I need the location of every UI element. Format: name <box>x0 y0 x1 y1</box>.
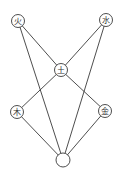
node-label: 金 <box>101 106 109 116</box>
node-label: 火 <box>14 17 22 26</box>
node-wood: 木 <box>11 106 24 119</box>
node-fire: 火 <box>12 15 25 28</box>
edges-layer <box>17 20 106 160</box>
edge-water-center-bottom <box>63 20 106 160</box>
node-circle <box>56 153 70 167</box>
nodes-layer: 火水土木金 <box>11 14 113 168</box>
five-elements-diagram: 火水土木金 <box>0 0 122 178</box>
edge-metal-center-bottom <box>63 111 105 160</box>
edge-fire-center-bottom <box>18 21 63 160</box>
edge-fire-earth <box>18 21 61 70</box>
node-label: 木 <box>13 107 21 117</box>
node-center-bottom <box>56 153 70 167</box>
edge-earth-metal <box>61 70 105 111</box>
node-label: 土 <box>57 65 65 75</box>
node-water: 水 <box>100 14 113 27</box>
edge-earth-wood <box>17 70 61 112</box>
node-metal: 金 <box>99 105 112 118</box>
edge-water-earth <box>61 20 106 70</box>
node-label: 水 <box>102 15 110 25</box>
edge-wood-center-bottom <box>17 112 63 160</box>
node-earth: 土 <box>55 64 68 77</box>
